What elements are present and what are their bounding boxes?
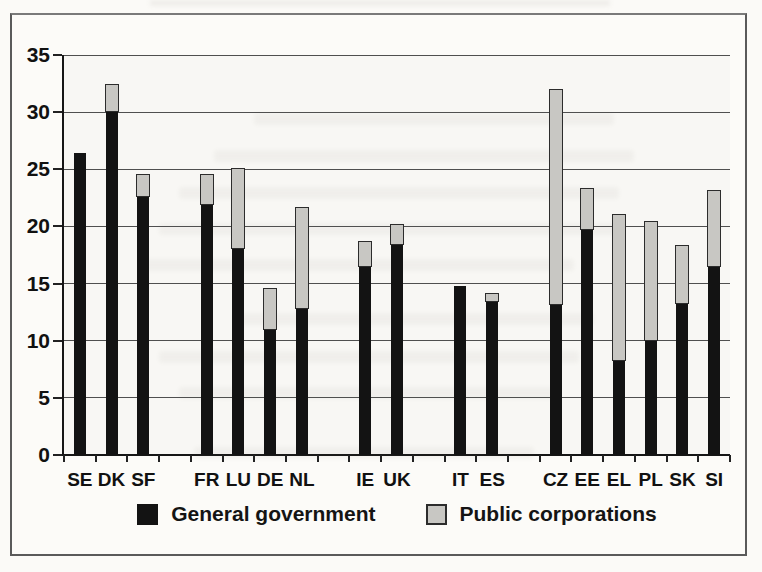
y-axis-tick (53, 340, 62, 342)
y-axis-label-20: 20 (12, 215, 50, 236)
y-axis-label-5: 5 (12, 387, 50, 408)
bar-PL-public-corporations (644, 221, 658, 341)
y-axis-label-25: 25 (12, 158, 50, 179)
x-axis-tick (570, 455, 572, 462)
x-axis-tick (285, 455, 287, 462)
y-axis-label-35: 35 (12, 44, 50, 65)
bar-UK-public-corporations (390, 224, 404, 244)
x-axis-label-SI: SI (692, 469, 736, 491)
legend-label: Public corporations (460, 502, 657, 526)
x-axis-label-NL: NL (280, 469, 324, 491)
bar-ES-public-corporations (485, 293, 499, 302)
x-axis-tick (63, 455, 65, 462)
x-axis-tick (158, 455, 160, 462)
bar-SI-public-corporations (707, 190, 721, 268)
y-axis-label-30: 30 (12, 101, 50, 122)
x-axis-tick (222, 455, 224, 462)
x-axis-tick (317, 455, 319, 462)
x-axis-tick (348, 455, 350, 462)
x-axis-tick (475, 455, 477, 462)
bar-SF-general-government (137, 196, 149, 455)
scan-artifact (234, 313, 594, 325)
x-axis-tick (634, 455, 636, 462)
bar-SI-general-government (708, 266, 720, 455)
x-axis-tick (666, 455, 668, 462)
x-axis-tick (539, 455, 541, 462)
scan-artifact (214, 150, 634, 162)
bar-UK-general-government (391, 244, 403, 455)
y-axis-tick (53, 111, 62, 113)
bar-CZ-public-corporations (549, 89, 563, 305)
x-axis-label-ES: ES (470, 469, 514, 491)
y-axis-tick (53, 283, 62, 285)
x-axis-label-UK: UK (375, 469, 419, 491)
bar-DK-public-corporations (105, 84, 119, 112)
gridline-35 (64, 55, 730, 56)
bar-FR-general-government (201, 204, 213, 455)
figure-box: 05101520253035SEDKSFFRLUDENLIEUKITESCZEE… (10, 13, 747, 556)
bar-SK-general-government (676, 303, 688, 455)
legend-swatch-gray-icon (426, 504, 447, 525)
bar-IT-general-government (454, 286, 466, 455)
legend: General government Public corporations (64, 502, 730, 526)
bar-EE-general-government (581, 229, 593, 455)
x-axis-tick (602, 455, 604, 462)
bar-SK-public-corporations (675, 245, 689, 304)
bar-DK-general-government (106, 111, 118, 455)
x-axis-tick (697, 455, 699, 462)
bar-CZ-general-government (550, 304, 562, 455)
gridline-30 (64, 112, 730, 113)
y-axis-label-15: 15 (12, 273, 50, 294)
x-axis-label-SF: SF (121, 469, 165, 491)
x-axis-tick (190, 455, 192, 462)
x-axis-tick (126, 455, 128, 462)
bar-IE-public-corporations (358, 241, 372, 267)
x-axis-tick (444, 455, 446, 462)
x-axis-tick (412, 455, 414, 462)
scan-artifact-top (150, 0, 610, 6)
bar-NL-general-government (296, 308, 308, 455)
y-axis-line (62, 55, 64, 455)
bar-PL-general-government (645, 340, 657, 455)
bar-LU-general-government (232, 248, 244, 455)
x-axis-tick (253, 455, 255, 462)
bar-EL-general-government (613, 360, 625, 455)
y-axis-tick (53, 54, 62, 56)
legend-swatch-black-icon (137, 504, 158, 525)
y-axis-tick (53, 225, 62, 227)
bar-ES-general-government (486, 301, 498, 455)
plot-area: 05101520253035SEDKSFFRLUDENLIEUKITESCZEE… (64, 55, 730, 455)
y-axis-label-10: 10 (12, 330, 50, 351)
bar-DE-general-government (264, 329, 276, 455)
x-axis-tick (380, 455, 382, 462)
x-axis-tick (95, 455, 97, 462)
y-axis-tick (53, 397, 62, 399)
x-axis-tick (507, 455, 509, 462)
bar-DE-public-corporations (263, 288, 277, 330)
y-axis-tick (53, 454, 62, 456)
bar-SF-public-corporations (136, 174, 150, 197)
bar-NL-public-corporations (295, 207, 309, 309)
legend-item-general-government: General government (137, 502, 375, 526)
bar-FR-public-corporations (200, 174, 214, 205)
legend-item-public-corporations: Public corporations (426, 502, 657, 526)
y-axis-tick (53, 168, 62, 170)
legend-label: General government (171, 502, 375, 526)
gridline-25 (64, 169, 730, 170)
bar-LU-public-corporations (231, 168, 245, 249)
y-axis-label-0: 0 (12, 444, 50, 465)
bar-EE-public-corporations (580, 188, 594, 230)
bar-IE-general-government (359, 266, 371, 455)
bar-EL-public-corporations (612, 214, 626, 361)
x-axis-tick (729, 455, 731, 462)
bar-SE-general-government (74, 153, 86, 455)
